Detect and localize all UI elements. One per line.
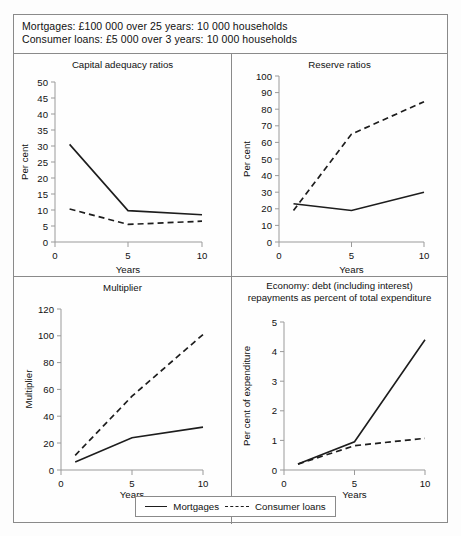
y-ticks: [51, 82, 55, 242]
header-line-mortgages: Mortgages: £100 000 over 25 years: 10 00…: [22, 20, 447, 33]
series-mortgages-line: [298, 340, 425, 464]
series-mortgages-line: [70, 144, 202, 214]
svg-text:100: 100: [256, 71, 272, 82]
y-tick-labels: 5 4 3 2 1 0: [272, 317, 278, 476]
svg-text:5: 5: [129, 478, 134, 489]
y-axis-label: Per cent: [241, 141, 252, 177]
svg-text:4: 4: [272, 346, 278, 357]
svg-text:0: 0: [49, 465, 54, 476]
svg-text:5: 5: [125, 250, 130, 261]
svg-text:30: 30: [37, 141, 48, 152]
svg-text:0: 0: [272, 465, 277, 476]
legend-label-consumer-loans: Consumer loans: [255, 501, 326, 512]
x-axis-label: Years: [116, 264, 141, 275]
figure-header: Mortgages: £100 000 over 25 years: 10 00…: [14, 15, 447, 54]
svg-text:35: 35: [37, 125, 48, 136]
series-consumer-loans-line: [294, 102, 425, 211]
x-tick-labels: 0 5 10: [58, 478, 208, 489]
svg-text:40: 40: [43, 411, 54, 422]
svg-text:20: 20: [261, 203, 272, 214]
svg-text:0: 0: [58, 478, 63, 489]
y-tick-labels: 120 100 80 60 40 20 0: [38, 304, 54, 476]
x-tick-labels: 0 5 10: [281, 478, 430, 489]
y-ticks: [280, 322, 284, 470]
svg-text:100: 100: [38, 330, 54, 341]
svg-text:10: 10: [420, 478, 431, 489]
svg-text:20: 20: [43, 438, 54, 449]
svg-text:0: 0: [267, 237, 272, 248]
svg-text:25: 25: [37, 157, 48, 168]
chart-panel-capital-adequacy: Capital adequacy ratios: [14, 54, 231, 276]
svg-text:40: 40: [37, 109, 48, 120]
chart-plot-economy-debt: 5 4 3 2 1 0 0 5 10 Years Per cent of exp…: [232, 277, 447, 499]
svg-text:10: 10: [198, 478, 209, 489]
svg-text:90: 90: [261, 87, 272, 98]
svg-text:0: 0: [276, 250, 281, 261]
legend-label-mortgages: Mortgages: [173, 501, 219, 512]
svg-text:80: 80: [261, 104, 272, 115]
series-consumer-loans-line: [298, 438, 425, 464]
svg-text:120: 120: [38, 304, 54, 315]
x-axis-label: Years: [342, 489, 367, 500]
x-tick-labels: 0 5 10: [52, 250, 207, 261]
svg-text:5: 5: [43, 221, 48, 232]
svg-text:20: 20: [37, 173, 48, 184]
x-tick-labels: 0 5 10: [276, 250, 429, 261]
svg-text:0: 0: [43, 237, 48, 248]
svg-text:0: 0: [52, 250, 57, 261]
x-ticks: [55, 242, 202, 247]
chart-plot-multiplier: 120 100 80 60 40 20 0 0 5 10 Years Multi…: [14, 277, 231, 499]
svg-text:3: 3: [272, 376, 277, 387]
y-tick-labels: 100 90 80 70 60 50 40 30 20 10 0: [256, 71, 272, 248]
y-ticks: [275, 76, 279, 242]
svg-text:50: 50: [37, 77, 48, 88]
svg-text:5: 5: [349, 250, 354, 261]
svg-text:60: 60: [43, 384, 54, 395]
y-axis-label: Per cent of expenditure: [241, 346, 252, 446]
chart-panel-multiplier: Multiplier: [14, 277, 231, 499]
svg-text:5: 5: [272, 317, 277, 328]
x-ticks: [284, 470, 425, 475]
svg-text:45: 45: [37, 93, 48, 104]
x-ticks: [279, 242, 424, 247]
figure-legend: Mortgages Consumer loans: [135, 496, 336, 517]
header-line-consumer-loans: Consumer loans: £5 000 over 3 years: 10 …: [22, 33, 447, 46]
svg-text:0: 0: [281, 478, 286, 489]
y-axis-label: Per cent: [19, 144, 30, 180]
legend-dashed-line-icon: [225, 506, 249, 507]
figure-outer-frame: Mortgages: £100 000 over 25 years: 10 00…: [13, 14, 448, 523]
figure-panel-grid: Mortgages: £100 000 over 25 years: 10 00…: [0, 0, 461, 536]
x-ticks: [61, 470, 203, 475]
series-mortgages-line: [294, 192, 425, 210]
svg-text:50: 50: [261, 154, 272, 165]
x-axis-label: Years: [339, 264, 364, 275]
legend-solid-line-icon: [145, 506, 167, 507]
chart-panel-economy-debt: Economy: debt (including interest) repay…: [232, 277, 447, 499]
svg-text:10: 10: [37, 205, 48, 216]
y-tick-labels: 50 45 40 35 30 25 20 15 10 5 0: [37, 77, 48, 248]
series-mortgages-line: [75, 427, 203, 462]
svg-text:10: 10: [419, 250, 430, 261]
svg-text:5: 5: [352, 478, 357, 489]
y-ticks: [57, 309, 61, 470]
svg-text:15: 15: [37, 189, 48, 200]
chart-plot-capital-adequacy: 50 45 40 35 30 25 20 15 10 5 0 0 5 10: [14, 54, 231, 276]
svg-text:60: 60: [261, 137, 272, 148]
svg-text:10: 10: [197, 250, 208, 261]
chart-plot-reserve-ratios: 100 90 80 70 60 50 40 30 20 10 0 0 5 10: [232, 54, 447, 276]
svg-text:30: 30: [261, 187, 272, 198]
svg-text:40: 40: [261, 170, 272, 181]
svg-text:70: 70: [261, 120, 272, 131]
chart-panel-reserve-ratios: Reserve ratios: [232, 54, 447, 276]
svg-text:80: 80: [43, 357, 54, 368]
svg-text:10: 10: [261, 220, 272, 231]
svg-text:2: 2: [272, 405, 277, 416]
svg-text:1: 1: [272, 435, 277, 446]
y-axis-label: Multiplier: [23, 369, 34, 409]
